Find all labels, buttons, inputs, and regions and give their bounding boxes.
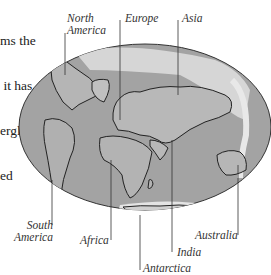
label-europe: Europe xyxy=(125,12,158,24)
label-antarctica: Antarctica xyxy=(143,262,191,274)
label-africa: Africa xyxy=(80,234,109,246)
label-south-america: South America xyxy=(14,219,53,243)
label-australia: Australia xyxy=(195,229,238,241)
label-india: India xyxy=(177,246,201,258)
label-asia: Asia xyxy=(182,12,202,24)
label-north-america: North America xyxy=(67,12,106,36)
